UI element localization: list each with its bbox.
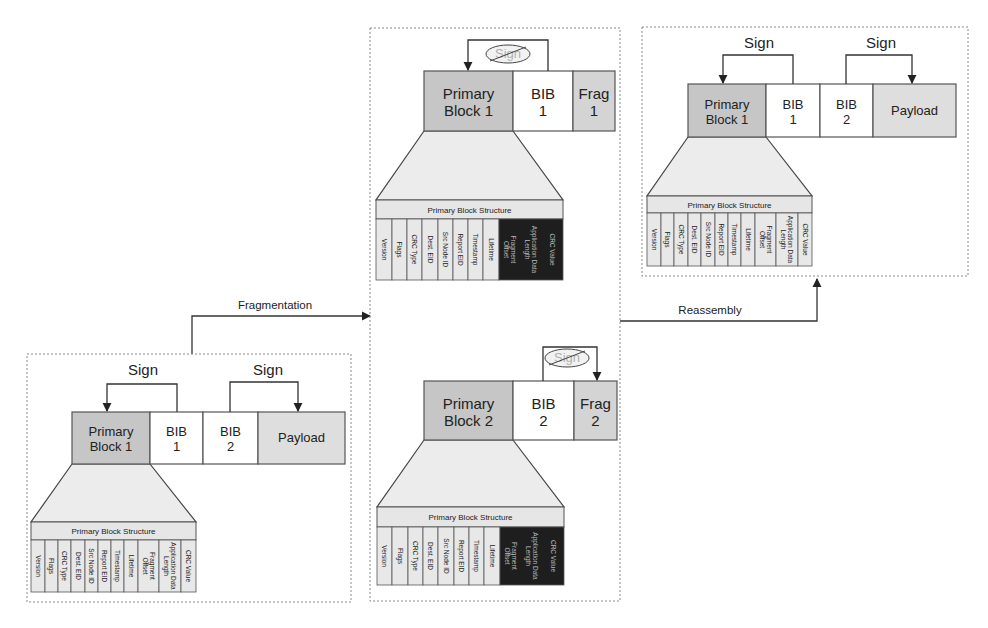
column-label: CRC Type — [411, 541, 419, 571]
column-label: CRC Value — [185, 550, 192, 582]
fragmentation-arrow: Fragmentation — [192, 299, 370, 354]
block-label: Payload — [891, 103, 938, 118]
reassembly-label: Reassembly — [678, 304, 742, 316]
sign-loop: Sign — [723, 34, 793, 84]
block-label: Payload — [278, 430, 325, 445]
table-column-header: Version — [35, 555, 42, 577]
table-column-header: Report EID — [100, 550, 108, 582]
table-column-header: Dest. EID — [691, 226, 698, 254]
column-label: Length — [162, 556, 170, 576]
column-label: Dest. EID — [427, 236, 434, 264]
sign-cancelled-loop: Sign — [543, 347, 597, 381]
table-title: Primary Block Structure — [428, 513, 513, 522]
column-label: Lifetime — [488, 238, 495, 261]
primary-block-expansion — [31, 464, 196, 522]
panels: PrimaryBlock 1BIB1BIB2PayloadSignSignPri… — [27, 27, 968, 602]
block-primary: PrimaryBlock 1 — [72, 412, 150, 464]
table-column-header: Src Node ID — [443, 538, 450, 574]
sign-loop: Sign — [846, 34, 912, 84]
table-column-header: Dest. EID — [427, 236, 434, 264]
table-column-header: Version — [381, 239, 388, 261]
block-label-line2: 1 — [590, 102, 598, 119]
block-label-line2: 1 — [539, 102, 547, 119]
block-label-line1: Frag — [579, 85, 610, 102]
column-label: Version — [651, 229, 658, 251]
block-label-line1: BIB — [783, 97, 804, 112]
column-label: CRC Type — [677, 225, 685, 255]
column-label: Src Node ID — [442, 232, 449, 268]
column-label: Report EID — [457, 540, 465, 572]
block-payload: Payload — [873, 84, 956, 137]
table-column-header: CRC Type — [60, 551, 68, 581]
block-frag: Frag2 — [574, 381, 617, 440]
block-primary: PrimaryBlock 2 — [424, 381, 513, 440]
primary-block-expansion — [376, 131, 563, 200]
table-title: Primary Block Structure — [71, 527, 156, 536]
column-label: Lifetime — [745, 228, 752, 251]
original-bundle-panel: PrimaryBlock 1BIB1BIB2PayloadSignSignPri… — [27, 354, 351, 602]
table-column-header: Lifetime — [489, 545, 496, 568]
primary-block-structure-table: Primary Block StructureVersionFlagsCRC T… — [31, 522, 196, 592]
block-label-line2: Block 1 — [90, 439, 133, 454]
block-bib: BIB2 — [513, 381, 574, 440]
table-column-header: Dest. EID — [75, 552, 82, 580]
block-label-line1: BIB — [220, 424, 241, 439]
table-column-header: CRC Type — [677, 225, 685, 255]
column-label: Report EID — [100, 550, 108, 582]
column-label: Report EID — [456, 233, 464, 265]
column-label: Length — [523, 240, 531, 260]
table-column-header: Timestamp — [472, 540, 480, 572]
table-column-header: CRC Value — [549, 233, 556, 265]
table-column-header: CRC Value — [185, 550, 192, 582]
table-column-header: Flags — [396, 548, 404, 565]
column-label: Version — [35, 555, 42, 577]
sign-loop: Sign — [107, 361, 177, 412]
block-label-line2: Block 1 — [706, 112, 749, 127]
table-column-header: Dest. EID — [427, 542, 434, 570]
block-bib: BIB2 — [820, 84, 873, 137]
table-column-header: Report EID — [456, 233, 464, 265]
column-label: Lifetime — [128, 555, 135, 578]
block-primary: PrimaryBlock 1 — [688, 84, 766, 137]
column-label: Version — [381, 545, 388, 567]
table-column-header: Src Node ID — [705, 222, 712, 258]
table-column-header: Flags — [47, 558, 55, 575]
fragment-2-panel: PrimaryBlock 2BIB2Frag2SignPrimary Block… — [377, 347, 617, 585]
fragmentation-label: Fragmentation — [238, 299, 312, 311]
column-label: Timestamp — [472, 540, 480, 572]
column-label: Offset — [142, 557, 149, 574]
column-label: Length — [524, 546, 532, 566]
table-column-header: Src Node ID — [88, 548, 95, 584]
primary-block-structure-table: Primary Block StructureVersionFlagsCRC T… — [377, 507, 564, 585]
table-column-header: Report EID — [717, 223, 725, 255]
block-frag: Frag1 — [573, 71, 615, 131]
table-column-header: CRC Value — [550, 540, 557, 572]
column-label: Dest. EID — [75, 552, 82, 580]
table-column-header: Flags — [663, 232, 671, 249]
block-bib: BIB1 — [766, 84, 820, 137]
sign-cancelled-loop: Sign — [468, 40, 548, 71]
table-column-header: CRC Type — [411, 541, 419, 571]
column-label: Timestamp — [730, 224, 738, 256]
block-bib: BIB1 — [150, 412, 203, 464]
table-column-header: Timestamp — [730, 224, 738, 256]
column-label: Offset — [759, 231, 766, 248]
block-label-line1: BIB — [531, 395, 555, 412]
block-label-line2: 2 — [227, 439, 234, 454]
column-label: Length — [779, 230, 787, 250]
table-column-header: Version — [651, 229, 658, 251]
column-label: Flags — [396, 548, 404, 565]
table-title: Primary Block Structure — [427, 206, 512, 215]
table-column-header: Timestamp — [113, 550, 121, 582]
block-label-line2: 1 — [173, 439, 180, 454]
column-label: CRC Type — [410, 235, 418, 265]
block-label-line1: Primary — [89, 424, 134, 439]
column-label: Offset — [503, 241, 510, 258]
table-column-header: Lifetime — [128, 555, 135, 578]
sign-label: Sign — [866, 34, 896, 51]
sign-arrow — [723, 55, 793, 84]
primary-block-structure-table: Primary Block StructureVersionFlagsCRC T… — [376, 200, 563, 280]
table-column-header: Flags — [395, 242, 403, 259]
block-label-line1: Frag — [580, 395, 611, 412]
block-label-line2: 2 — [843, 112, 850, 127]
